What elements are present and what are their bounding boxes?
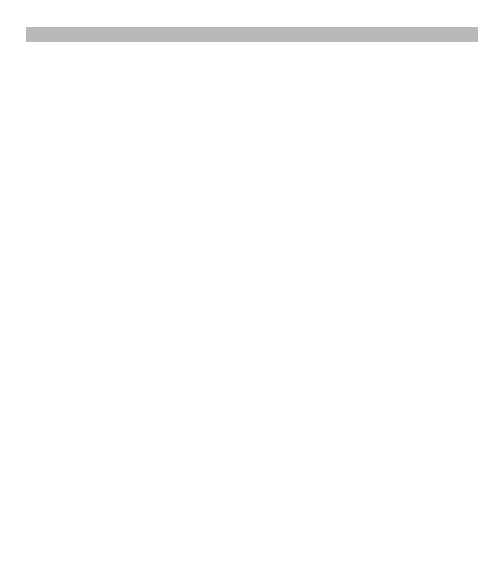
yield-curve-figure bbox=[0, 0, 498, 576]
